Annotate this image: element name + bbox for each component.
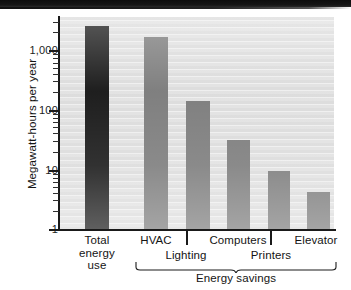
y-minor-tick bbox=[53, 92, 59, 93]
bar-lighting[interactable] bbox=[186, 101, 210, 229]
y-axis-title: Megawatt-hours per year bbox=[26, 29, 38, 219]
x-label-elevator: Elevator bbox=[285, 234, 347, 246]
y-minor-tick bbox=[53, 127, 59, 128]
x-separator-tick bbox=[186, 231, 188, 245]
y-minor-tick bbox=[53, 63, 59, 64]
y-tick-label-1: 1 bbox=[52, 223, 58, 235]
bar-computers[interactable] bbox=[227, 140, 250, 229]
x-label-computers: Computers bbox=[203, 234, 273, 246]
x-label-total-energy-use: Total energy use bbox=[60, 234, 134, 272]
x-separator-tick bbox=[270, 231, 272, 245]
y-minor-tick bbox=[53, 81, 59, 82]
x-label-total-line-1: Total bbox=[60, 234, 134, 247]
y-minor-tick bbox=[53, 122, 59, 123]
y-minor-tick bbox=[53, 118, 59, 119]
y-minor-tick bbox=[53, 74, 59, 75]
x-label-printers: Printers bbox=[240, 249, 302, 261]
energy-savings-label: Energy savings bbox=[135, 272, 337, 284]
y-minor-tick bbox=[53, 193, 59, 194]
x-label-lighting: Lighting bbox=[155, 249, 217, 261]
y-minor-tick bbox=[53, 58, 59, 59]
bar-elevator[interactable] bbox=[307, 192, 330, 229]
y-minor-tick bbox=[53, 22, 59, 23]
y-minor-tick bbox=[53, 32, 59, 33]
x-axis-line bbox=[58, 229, 336, 231]
y-minor-tick bbox=[53, 187, 59, 188]
bar-total-energy-use[interactable] bbox=[85, 26, 109, 229]
y-minor-tick bbox=[53, 174, 59, 175]
x-label-total-line-3: use bbox=[60, 259, 134, 272]
y-minor-tick bbox=[53, 200, 59, 201]
x-label-hvac: HVAC bbox=[128, 234, 184, 246]
y-minor-tick bbox=[53, 54, 59, 55]
y-axis-line bbox=[58, 16, 60, 230]
y-minor-tick bbox=[53, 133, 59, 134]
y-minor-tick bbox=[53, 211, 59, 212]
x-label-total-line-2: energy bbox=[60, 247, 134, 260]
y-minor-tick bbox=[53, 114, 59, 115]
y-minor-tick bbox=[53, 141, 59, 142]
plot-area bbox=[60, 17, 334, 229]
y-minor-tick bbox=[53, 152, 59, 153]
bar-hvac[interactable] bbox=[144, 37, 168, 229]
bar-printers[interactable] bbox=[268, 171, 290, 229]
y-minor-tick bbox=[53, 182, 59, 183]
bar-chart-figure: 1,000 100 10 1 Megawatt-hours per year T… bbox=[0, 0, 351, 290]
y-minor-tick bbox=[53, 178, 59, 179]
y-minor-tick bbox=[53, 68, 59, 69]
